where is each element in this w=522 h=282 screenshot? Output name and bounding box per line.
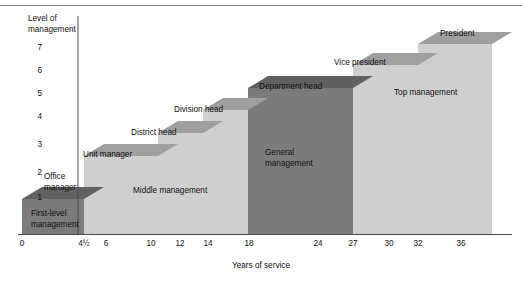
x-tick-18: 18 bbox=[241, 239, 257, 248]
y-tick-6: 6 bbox=[30, 66, 42, 75]
bar-president bbox=[418, 32, 512, 234]
callout-unit-manager: Unit manager bbox=[83, 150, 132, 159]
figure-canvas: Level of management 7 6 5 4 3 2 1 0 4½ 6… bbox=[0, 0, 522, 282]
band-middle-management: Middle management bbox=[133, 186, 207, 197]
band-first-level-management: First-level management bbox=[31, 209, 79, 230]
y-axis-title: Level of management bbox=[28, 14, 76, 35]
x-tick-30: 30 bbox=[381, 239, 397, 248]
x-tick-6: 6 bbox=[98, 239, 114, 248]
x-tick-36: 36 bbox=[453, 239, 469, 248]
y-tick-5: 5 bbox=[30, 89, 42, 98]
x-tick-14: 14 bbox=[200, 239, 216, 248]
y-tick-1: 1 bbox=[30, 193, 42, 202]
x-tick-32: 32 bbox=[410, 239, 426, 248]
x-tick-24: 24 bbox=[310, 239, 326, 248]
callout-president: President bbox=[440, 29, 475, 38]
x-tick-0: 0 bbox=[14, 239, 30, 248]
x-tick-27: 27 bbox=[345, 239, 361, 248]
x-axis-title: Years of service bbox=[0, 261, 522, 270]
x-tick-12: 12 bbox=[172, 239, 188, 248]
callout-office-manager: Office manager bbox=[44, 172, 76, 193]
callout-division-head: Division head bbox=[174, 105, 223, 114]
y-tick-2: 2 bbox=[30, 168, 42, 177]
callout-vice-president: Vice president bbox=[334, 58, 386, 67]
x-tick-10: 10 bbox=[143, 239, 159, 248]
band-general-management: General management bbox=[265, 148, 313, 169]
y-tick-7: 7 bbox=[30, 43, 42, 52]
callout-district-head: District head bbox=[131, 128, 177, 137]
band-top-management: Top management bbox=[394, 88, 457, 99]
y-tick-4: 4 bbox=[30, 112, 42, 121]
callout-department-head: Department head bbox=[259, 82, 322, 91]
x-tick-4h: 4½ bbox=[76, 239, 92, 248]
y-tick-3: 3 bbox=[30, 140, 42, 149]
